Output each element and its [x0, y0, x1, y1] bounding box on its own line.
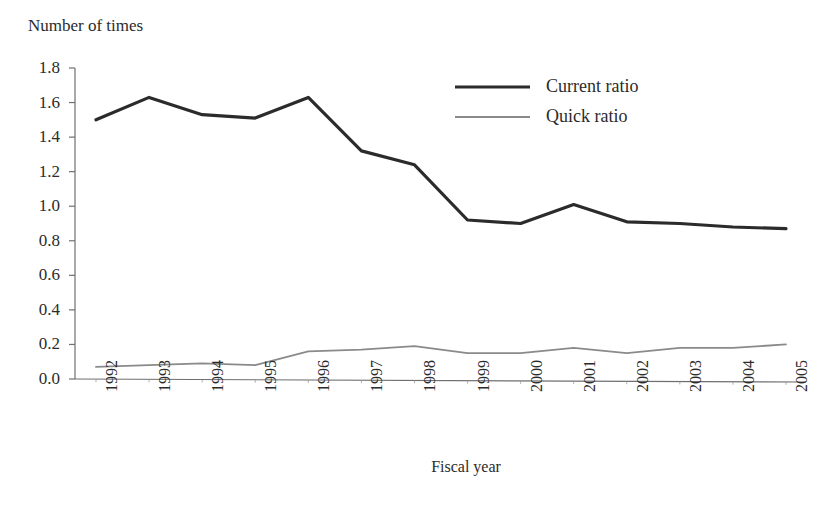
y-axis-tick-label: 1.8	[14, 59, 60, 76]
x-axis-title: Fiscal year	[0, 458, 822, 476]
series-line-current-ratio	[96, 97, 786, 228]
plot-area	[0, 0, 822, 508]
series-line-quick-ratio	[96, 344, 786, 367]
y-axis-tick-label: 0.6	[14, 266, 60, 283]
y-axis-tick-label: 0.8	[14, 232, 60, 249]
y-axis-tick-label: 1.0	[14, 197, 60, 214]
legend-item-quick-ratio: Quick ratio	[546, 107, 627, 125]
y-axis-tick-label: 0.0	[14, 370, 60, 387]
y-axis-tick-label: 1.2	[14, 163, 60, 180]
x-axis-title-text: Fiscal year	[431, 458, 501, 475]
y-axis-tick-label: 1.4	[14, 128, 60, 145]
y-axis-tick-label: 1.6	[14, 94, 60, 111]
y-axis-tick-label: 0.2	[14, 335, 60, 352]
line-chart: Number of times 0.00.20.40.60.81.01.21.4…	[0, 0, 822, 508]
y-axis-tick-label: 0.4	[14, 301, 60, 318]
legend-item-current-ratio: Current ratio	[546, 77, 638, 95]
